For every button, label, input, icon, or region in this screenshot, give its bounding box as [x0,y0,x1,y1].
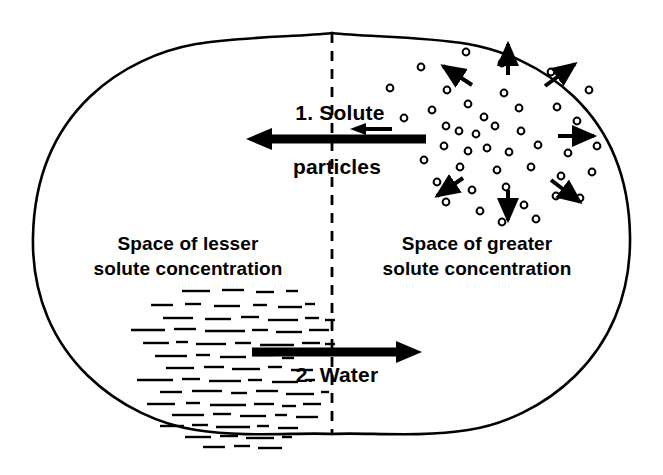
label-left-region-line2: solute concentration [94,258,283,279]
osmosis-diagram: 1. Solute particles 2. Water Space of le… [0,0,663,475]
label-right-region-line1: Space of greater [402,233,553,254]
label-right-region-line2: solute concentration [383,258,572,279]
label-left-region-line1: Space of lesser [118,233,259,254]
label-step1-particles: particles [293,155,381,178]
label-step1-solute: 1. Solute [295,101,384,124]
label-step2-water: 2. Water [296,363,379,386]
osmosis-illustration: 1. Solute particles 2. Water Space of le… [0,0,663,475]
